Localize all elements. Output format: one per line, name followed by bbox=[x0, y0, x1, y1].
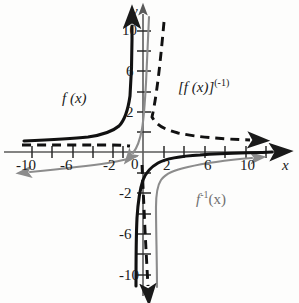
function-graph-figure: -10 -6 -2 2 6 10 0 10 6 2 -2 -6 -10 x y … bbox=[0, 0, 299, 303]
x-tick-label-neg6: -6 bbox=[60, 158, 73, 173]
f-inverse-arg: (x) bbox=[209, 191, 227, 207]
f-inverse-left-branch bbox=[30, 156, 137, 172]
x-tick-label-6: 6 bbox=[204, 158, 212, 173]
x-tick-label-neg2: -2 bbox=[103, 158, 116, 173]
f-reciprocal-left-branch bbox=[22, 145, 130, 146]
origin-label: 0 bbox=[131, 157, 139, 172]
f-inverse-right-branch bbox=[156, 158, 252, 287]
y-tick-label-neg2: -2 bbox=[119, 186, 132, 201]
curve-label-f: f (x) bbox=[62, 91, 87, 106]
f-reciprocal-base: [f (x)] bbox=[178, 79, 214, 95]
x-tick-label-2: 2 bbox=[163, 158, 171, 173]
y-tick-label-10: 10 bbox=[122, 23, 137, 38]
x-tick-label-10: 10 bbox=[240, 158, 255, 173]
y-tick-label-neg6: -6 bbox=[119, 227, 132, 242]
curve-f bbox=[24, 26, 272, 286]
plot-canvas bbox=[0, 0, 299, 303]
x-tick-label-neg10: -10 bbox=[16, 158, 36, 173]
curve-label-f-inverse: f-1(x) bbox=[196, 190, 226, 207]
y-tick-label-2: 2 bbox=[126, 105, 134, 120]
f-upper-left-branch bbox=[24, 26, 132, 141]
curve-label-f-reciprocal: [f (x)](-1) bbox=[178, 78, 229, 95]
f-reciprocal-exponent: (-1) bbox=[214, 77, 229, 88]
x-axis-label: x bbox=[282, 158, 289, 173]
y-axis-ticks bbox=[137, 31, 151, 275]
y-tick-label-neg10: -10 bbox=[119, 268, 139, 283]
y-tick-label-6: 6 bbox=[126, 64, 134, 79]
y-axis-label: y bbox=[131, 4, 138, 19]
f-inverse-exponent: -1 bbox=[200, 189, 208, 200]
